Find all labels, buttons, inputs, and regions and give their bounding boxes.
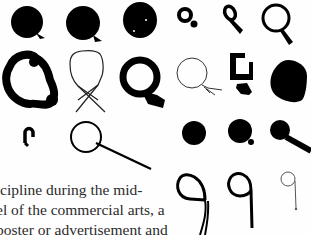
glyph-small-bold-ring-tail (179, 9, 198, 28)
glyph-filled-blob-speckled (123, 2, 157, 38)
glyph-rough-bubbly-ring (6, 55, 58, 106)
glyph-filled-teardrop (270, 60, 307, 102)
body-text-line: el of the commercial arts, a (0, 200, 307, 220)
body-text-line: cipline during the mid- (0, 180, 311, 200)
glyph-filled-dot (182, 121, 206, 145)
document-page: cipline during the mid- el of the commer… (0, 0, 311, 235)
glyph-filled-blob-small-tail-2 (66, 6, 102, 42)
glyph-filled-dot-stick-tail (270, 120, 311, 151)
glyph-filled-blob-small-tail (11, 6, 45, 39)
glyph-thick-ring-flag-tail (123, 60, 165, 108)
glyph-teardrop-ring-tail (223, 5, 243, 34)
glyph-thin-ring-long-tail (71, 122, 151, 169)
body-text: cipline during the mid- el of the commer… (0, 180, 311, 235)
glyph-bold-ring-short-tail (263, 5, 293, 45)
glyph-square-broken-ring (230, 53, 253, 95)
glyph-thin-balloon-string (177, 58, 222, 95)
glyph-filled-dot-small-tail (228, 119, 254, 145)
glyph-small-arch (25, 129, 33, 147)
body-text-line: poster or advertisement and (0, 220, 307, 235)
glyph-thin-crossed-loop (70, 50, 105, 112)
